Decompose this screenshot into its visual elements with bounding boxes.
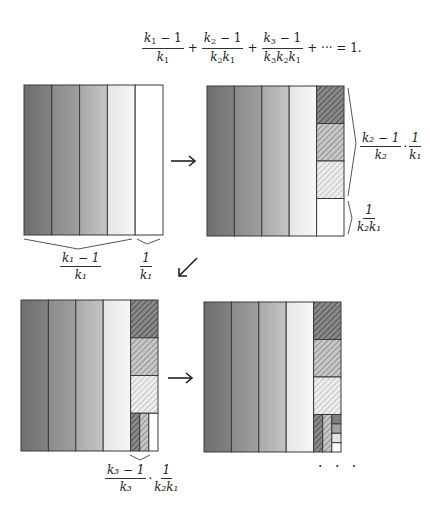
brace-step-3	[130, 455, 150, 460]
label-1-over-k1: 1 k₁	[140, 252, 152, 281]
label-1-over-k2k1: 1 k₂k₁	[357, 204, 381, 233]
square-step-1	[24, 85, 163, 235]
square-step-3	[21, 300, 158, 451]
brace-step-1	[24, 239, 160, 249]
arrow-down-left-icon	[179, 258, 197, 276]
square-step-4	[204, 302, 341, 452]
label-k1-minus-1-over-k1: k₁ − 1 k₁	[60, 252, 101, 281]
arrow-right-icon	[171, 156, 195, 166]
arrow-right-icon	[168, 373, 192, 383]
label-step3: k₃ − 1 k₃ · 1 k₂k₁	[105, 464, 178, 493]
ellipsis: · · ·	[318, 458, 360, 474]
brace-step-2	[348, 88, 356, 234]
label-step2-upper: k₂ − 1 k₂ · 1 k₁	[360, 132, 421, 161]
square-step-2	[207, 86, 344, 236]
